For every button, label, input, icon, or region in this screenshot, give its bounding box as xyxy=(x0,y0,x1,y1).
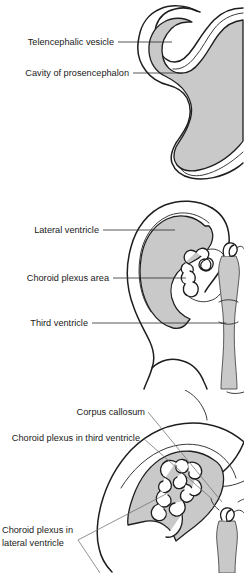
label-lateral-ventricle: Lateral ventricle xyxy=(34,225,99,235)
anatomical-figure: Telencephalic vesicle Cavity of prosence… xyxy=(0,0,244,573)
leader-choroid-plexus-lateral-ventricle-lower xyxy=(78,540,100,573)
label-third-ventricle: Third ventricle xyxy=(30,318,88,328)
panel-telencephalic-vesicle: Telencephalic vesicle Cavity of prosence… xyxy=(0,0,244,190)
panel-corpus-callosum: Corpus callosum Choroid plexus in third … xyxy=(0,390,244,573)
panel-lateral-ventricle: Lateral ventricle Choroid plexus area Th… xyxy=(0,190,244,390)
label-choroid-plexus-area: Choroid plexus area xyxy=(27,273,110,283)
label-corpus-callosum: Corpus callosum xyxy=(77,407,146,417)
label-choroid-plexus-third-ventricle: Choroid plexus in third ventricle xyxy=(12,433,140,443)
label-telencephalic-vesicle: Telencephalic vesicle xyxy=(28,37,114,47)
label-choroid-plexus-lateral-ventricle-line1: Choroid plexus in xyxy=(2,525,73,535)
label-cavity-of-prosencephalon: Cavity of prosencephalon xyxy=(25,68,129,78)
label-choroid-plexus-lateral-ventricle-line2: lateral ventricle xyxy=(2,538,64,548)
